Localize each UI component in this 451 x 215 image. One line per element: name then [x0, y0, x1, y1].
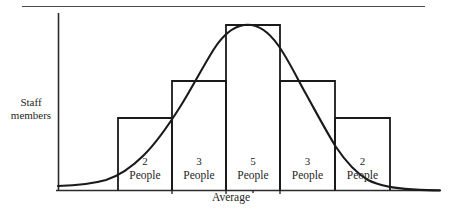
bar-label-1: 2 People [118, 154, 172, 182]
bar-count-5: 2 [335, 154, 390, 168]
x-axis-label: Average [196, 191, 266, 204]
bar-unit-3: People [226, 168, 280, 182]
y-axis-label-line1: Staff [20, 96, 41, 108]
bar-count-2: 3 [172, 154, 226, 168]
bar-count-3: 5 [226, 154, 280, 168]
bar-label-5: 2 People [335, 154, 390, 182]
bar-unit-4: People [280, 168, 335, 182]
bar-label-3: 5 People [226, 154, 280, 182]
bar-count-1: 2 [118, 154, 172, 168]
y-axis-label-line2: members [11, 109, 51, 121]
bar-label-2: 3 People [172, 154, 226, 182]
distribution-chart [0, 0, 451, 215]
bar-unit-5: People [335, 168, 390, 182]
bar-label-4: 3 People [280, 154, 335, 182]
bar-unit-2: People [172, 168, 226, 182]
y-axis-label: Staff members [8, 96, 54, 122]
bar-unit-1: People [118, 168, 172, 182]
bar-count-4: 3 [280, 154, 335, 168]
